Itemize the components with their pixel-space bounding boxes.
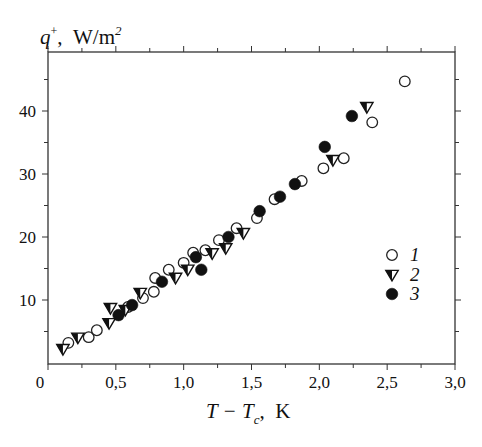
legend-marker xyxy=(386,288,398,300)
legend-item-2: 2 xyxy=(386,264,420,285)
filled-circle-marker xyxy=(223,231,235,243)
filled-circle-marker xyxy=(190,251,202,263)
open-circle-marker xyxy=(367,117,378,128)
x-axis-title: T − Tc, K xyxy=(206,399,290,427)
data-points xyxy=(57,76,410,355)
x-tick-label: 2,0 xyxy=(309,373,330,392)
open-circle-marker xyxy=(338,153,349,164)
plot-border xyxy=(48,52,455,364)
series-2 xyxy=(57,103,373,355)
legend-label: 2 xyxy=(410,264,420,285)
data-point xyxy=(254,205,266,217)
data-point xyxy=(318,163,329,174)
x-tick-label: 0 xyxy=(36,373,45,392)
open-circle-marker xyxy=(92,325,103,336)
data-point xyxy=(319,141,331,153)
filled-circle-marker xyxy=(346,110,358,122)
data-point xyxy=(289,178,301,190)
data-point xyxy=(346,110,358,122)
filled-circle-marker xyxy=(274,191,286,203)
y-tick-label: 20 xyxy=(19,228,36,247)
data-point xyxy=(220,244,232,255)
data-point xyxy=(367,117,378,128)
y-tick-label: 40 xyxy=(19,102,36,121)
filled-circle-marker xyxy=(254,205,266,217)
data-point xyxy=(156,276,168,288)
y-tick-label: 10 xyxy=(19,291,36,310)
x-tick-label: 3,0 xyxy=(444,373,465,392)
legend-label: 3 xyxy=(409,283,420,304)
x-tick-label: 0,5 xyxy=(105,373,126,392)
data-point xyxy=(327,155,339,166)
filled-circle-marker xyxy=(113,309,125,321)
open-circle-marker xyxy=(318,163,329,174)
data-point xyxy=(113,309,125,321)
filled-circle-marker xyxy=(196,264,208,276)
data-point xyxy=(103,319,115,330)
data-point xyxy=(57,344,69,355)
chart: q+, W/m2 T − Tc, K 00,51,01,52,02,53,0 1… xyxy=(0,0,482,447)
filled-circle-marker xyxy=(289,178,301,190)
data-point xyxy=(169,273,181,284)
data-point xyxy=(237,229,249,240)
data-point xyxy=(274,191,286,203)
x-tick-label: 2,5 xyxy=(377,373,398,392)
filled-circle-marker xyxy=(319,141,331,153)
data-point xyxy=(126,299,138,311)
legend-item-3: 3 xyxy=(386,283,419,304)
y-tick-labels: 10203040 xyxy=(19,102,36,310)
data-point xyxy=(361,103,373,114)
y-tick-label: 30 xyxy=(19,165,36,184)
legend: 123 xyxy=(386,244,420,304)
plot-frame xyxy=(48,52,455,364)
legend-label: 1 xyxy=(410,244,420,265)
open-circle-marker xyxy=(387,250,398,261)
data-point xyxy=(338,153,349,164)
legend-item-1: 1 xyxy=(387,244,420,265)
y-axis-title: q+, W/m2 xyxy=(40,23,122,49)
data-point xyxy=(182,265,194,276)
open-circle-marker xyxy=(400,76,411,87)
filled-circle-marker xyxy=(156,276,168,288)
data-point xyxy=(190,251,202,263)
data-point xyxy=(223,231,235,243)
x-tick-label: 1,0 xyxy=(173,373,194,392)
open-circle-marker xyxy=(149,287,160,298)
filled-circle-marker xyxy=(386,288,398,300)
data-point xyxy=(92,325,103,336)
data-point xyxy=(149,287,160,298)
x-tick-labels: 00,51,01,52,02,53,0 xyxy=(36,373,466,392)
legend-marker xyxy=(387,250,398,261)
data-point xyxy=(196,264,208,276)
legend-marker xyxy=(386,270,398,281)
x-tick-label: 1,5 xyxy=(241,373,262,392)
filled-circle-marker xyxy=(126,299,138,311)
data-point xyxy=(400,76,411,87)
